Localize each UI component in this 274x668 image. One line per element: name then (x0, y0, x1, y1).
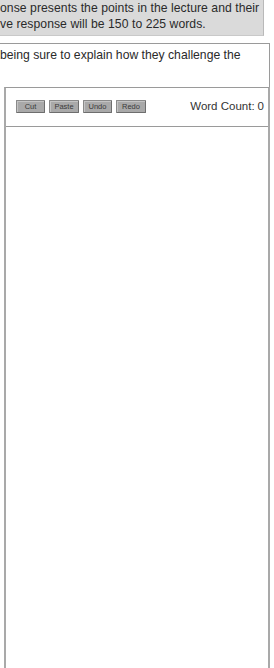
undo-button[interactable]: Undo (83, 100, 112, 113)
directions-panel: onse presents the points in the lecture … (0, 0, 264, 36)
response-textarea[interactable] (6, 127, 268, 668)
word-count: Word Count:0 (190, 100, 264, 112)
question-prompt: being sure to explain how they challenge… (0, 48, 241, 62)
redo-button[interactable]: Redo (116, 100, 146, 113)
response-editor: Cut Paste Undo Redo Word Count:0 (4, 87, 270, 668)
question-panel: being sure to explain how they challenge… (0, 43, 270, 88)
word-count-value: 0 (258, 100, 264, 112)
directions-text-line-2: ve response will be 150 to 225 words. (0, 17, 206, 31)
word-count-label: Word Count: (190, 100, 254, 112)
editor-toolbar: Cut Paste Undo Redo Word Count:0 (6, 88, 268, 127)
directions-text-line-1: onse presents the points in the lecture … (0, 1, 259, 15)
paste-button[interactable]: Paste (49, 100, 79, 113)
cut-button[interactable]: Cut (16, 100, 45, 113)
